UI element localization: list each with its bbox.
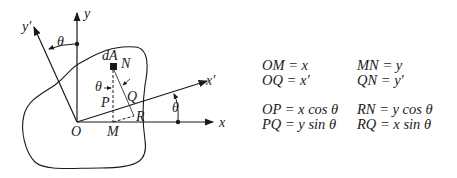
label-N: N	[120, 56, 131, 71]
label-origin: O	[71, 124, 81, 139]
equation-row: OM = x MN = y	[262, 58, 457, 73]
equation-row: PQ = y sin θ RQ = x sin θ	[262, 117, 457, 132]
line-MR	[113, 116, 134, 122]
y-prime-axis	[34, 27, 77, 122]
label-x-prime: x′	[205, 73, 216, 88]
eq-RQ: RQ = x sin θ	[357, 117, 452, 132]
equation-row: OP = x cos θ RN = y cos θ	[262, 102, 457, 117]
equation-row: OQ = x′ QN = y′	[262, 73, 457, 88]
eq-PQ: PQ = y sin θ	[262, 117, 357, 132]
label-dA: dA	[102, 48, 118, 63]
x-axis-dot	[176, 120, 180, 124]
theta-inner-arrow-right	[123, 79, 130, 85]
label-Q: Q	[127, 89, 137, 104]
eq-MN: MN = y	[357, 58, 452, 73]
eq-QN: QN = y′	[357, 73, 452, 88]
rotated-axes-diagram: y y′ x x′ O M N P Q R dA θ θ θ	[0, 0, 230, 178]
equations-panel: OM = x MN = y OQ = x′ QN = y′ OP = x cos…	[262, 58, 457, 132]
label-y-prime: y′	[20, 19, 32, 34]
label-P: P	[100, 95, 110, 110]
label-theta-top: θ	[57, 34, 64, 49]
label-y: y	[82, 6, 91, 21]
eq-RN: RN = y cos θ	[357, 102, 452, 117]
eq-OM: OM = x	[262, 58, 357, 73]
eq-OQ: OQ = x′	[262, 73, 357, 88]
y-axis-dot	[75, 42, 79, 46]
label-R: R	[135, 109, 145, 124]
eq-OP: OP = x cos θ	[262, 102, 357, 117]
label-M: M	[106, 124, 120, 139]
label-x: x	[218, 115, 226, 130]
dA-square	[110, 63, 117, 70]
label-theta-inner: θ	[95, 79, 102, 94]
label-theta-right: θ	[172, 100, 179, 115]
